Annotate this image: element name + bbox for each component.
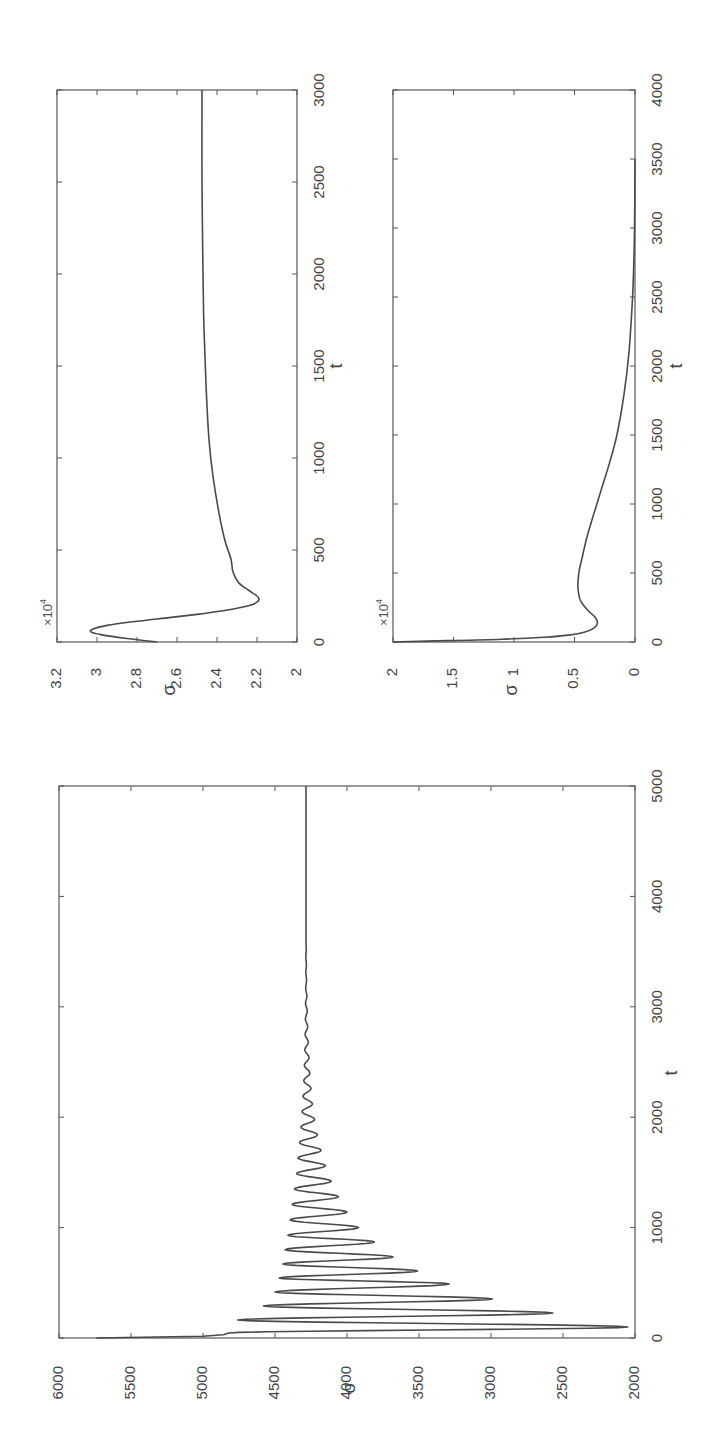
sigma-tick-label: 2 xyxy=(383,668,400,676)
t-tick-label: 3500 xyxy=(648,142,665,175)
t-tick-label: 3000 xyxy=(310,73,327,106)
x-axis-label: t xyxy=(666,363,686,368)
sigma-curve xyxy=(393,159,635,642)
axes-frame xyxy=(393,90,635,642)
sigma-tick-label: 3.2 xyxy=(47,668,64,689)
plot-sigma-vs-t-oscillating: 0100020003000400050002000250030003500400… xyxy=(49,769,681,1399)
sigma-tick-label: 4500 xyxy=(265,1366,282,1399)
t-tick-label: 0 xyxy=(648,1334,665,1342)
figure: 05001000150020002500300022.22.42.62.833.… xyxy=(0,0,711,1450)
t-tick-label: 2500 xyxy=(648,280,665,313)
y-axis-label: σ xyxy=(501,684,521,695)
sigma-tick-label: 6000 xyxy=(49,1366,66,1399)
sigma-tick-label: 1.5 xyxy=(443,668,460,689)
t-tick-label: 5000 xyxy=(648,769,665,802)
t-tick-label: 500 xyxy=(648,560,665,585)
sigma-tick-label: 2.2 xyxy=(247,668,264,689)
x-axis-label: t xyxy=(326,363,346,368)
sigma-tick-label: 0.5 xyxy=(564,668,581,689)
sigma-tick-label: 0 xyxy=(625,668,642,676)
t-tick-label: 1000 xyxy=(310,441,327,474)
t-tick-label: 0 xyxy=(648,638,665,646)
y-axis-label: σ xyxy=(159,684,179,695)
sigma-tick-label: 3 xyxy=(87,668,104,676)
sigma-curve xyxy=(90,90,259,642)
t-tick-label: 3000 xyxy=(648,990,665,1023)
sigma-tick-label: 1 xyxy=(504,668,521,676)
sigma-tick-label: 3000 xyxy=(481,1366,498,1399)
plot-sigma-vs-t-upper-right: 0500100015002000250030003500400000.511.5… xyxy=(374,73,686,695)
sigma-tick-label: 2000 xyxy=(625,1366,642,1399)
x-axis-label: t xyxy=(661,1070,681,1075)
exponent-multiplier-label: ×104 xyxy=(38,599,55,626)
sigma-tick-label: 5000 xyxy=(193,1366,210,1399)
sigma-tick-label: 3500 xyxy=(409,1366,426,1399)
t-tick-label: 1500 xyxy=(648,418,665,451)
t-tick-label: 2000 xyxy=(648,349,665,382)
t-tick-label: 1000 xyxy=(648,487,665,520)
sigma-tick-label: 2.8 xyxy=(127,668,144,689)
sigma-tick-label: 2 xyxy=(287,668,304,676)
y-axis-label: σ xyxy=(339,1382,359,1393)
t-tick-label: 1000 xyxy=(648,1211,665,1244)
t-tick-label: 1500 xyxy=(310,349,327,382)
t-tick-label: 4000 xyxy=(648,73,665,106)
t-tick-label: 500 xyxy=(310,537,327,562)
sigma-tick-label: 5500 xyxy=(121,1366,138,1399)
t-tick-label: 2000 xyxy=(310,257,327,290)
exponent-multiplier-label: ×104 xyxy=(374,599,391,626)
t-tick-label: 2000 xyxy=(648,1101,665,1134)
t-tick-label: 3000 xyxy=(648,211,665,244)
sigma-tick-label: 2500 xyxy=(553,1366,570,1399)
axes-frame xyxy=(57,90,297,642)
t-tick-label: 4000 xyxy=(648,880,665,913)
axes-frame xyxy=(59,786,635,1338)
sigma-oscillating-curve xyxy=(96,786,627,1338)
plot-sigma-vs-t-upper-left: 05001000150020002500300022.22.42.62.833.… xyxy=(38,73,346,695)
sigma-tick-label: 2.4 xyxy=(207,668,224,689)
t-tick-label: 2500 xyxy=(310,165,327,198)
t-tick-label: 0 xyxy=(310,638,327,646)
